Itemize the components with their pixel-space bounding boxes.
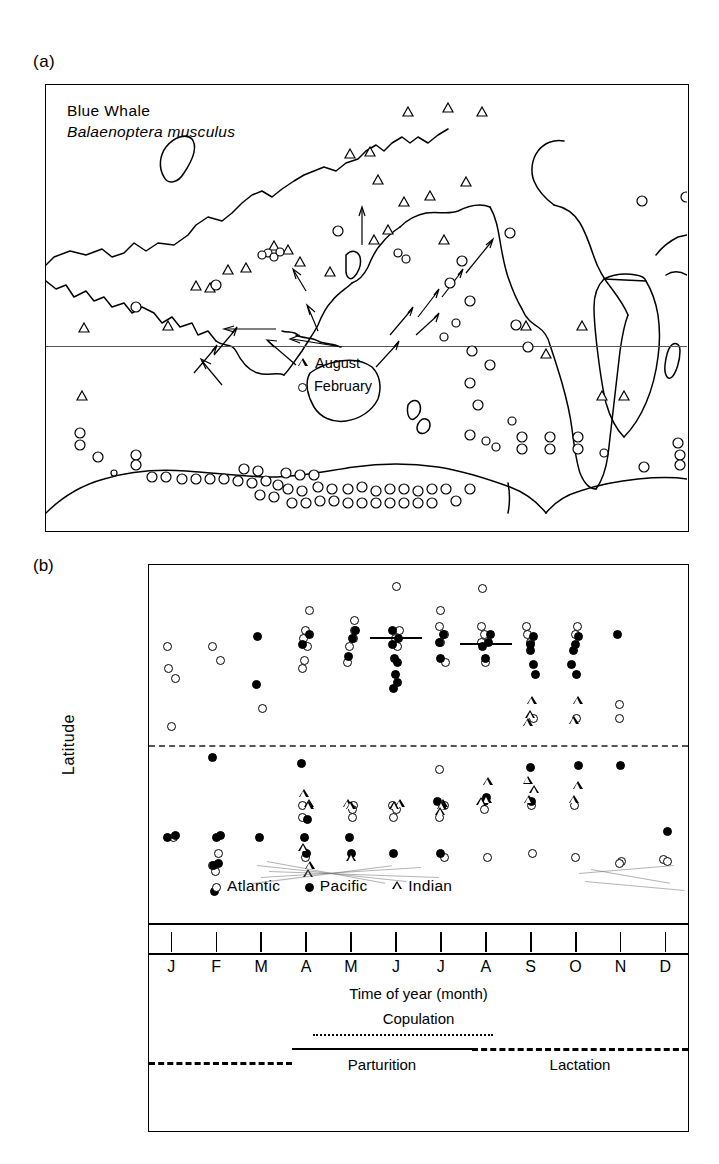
data-point-atlantic (392, 582, 401, 591)
data-point-atlantic (350, 616, 359, 625)
month-tick-a-3 (305, 932, 307, 952)
panel-a-label: (a) (33, 52, 55, 72)
data-point-pacific (297, 759, 306, 768)
data-point-pacific (253, 632, 262, 641)
data-point-atlantic (208, 642, 217, 651)
data-point-atlantic (483, 853, 492, 862)
month-label-11: D (654, 958, 678, 976)
data-point-pacific (388, 640, 397, 649)
panel-b-seasonal-latitude-chart: (b) Latitude N 90° 70° 50° 30° 10° 10° 3… (0, 540, 719, 1164)
median-bar (370, 637, 422, 639)
data-point-pacific (663, 827, 672, 836)
data-point-atlantic (298, 664, 307, 673)
figure-root: (a) (0, 0, 719, 1164)
data-point-pacific (572, 670, 581, 679)
scatter-plot-area (149, 565, 688, 923)
data-point-atlantic (436, 606, 445, 615)
data-point-atlantic (345, 642, 354, 651)
data-point-pacific (216, 831, 225, 840)
y-axis-tick-labels: N 90° 70° 50° 30° 10° 10° 30° 50° 70° S … (0, 540, 144, 940)
data-point-pacific (526, 763, 535, 772)
data-point-indian (527, 696, 537, 704)
month-tick-j-6 (440, 932, 442, 952)
map-sighting-symbols (46, 85, 687, 530)
circle-filled-icon (305, 883, 314, 892)
lactation-wrap-line (149, 1062, 292, 1065)
data-point-indian (299, 789, 309, 797)
month-label-4: M (339, 958, 363, 976)
month-tick-n-10 (620, 932, 622, 952)
data-point-pacific (255, 833, 264, 842)
month-label-3: A (294, 958, 318, 976)
data-point-pacific (298, 640, 307, 649)
month-tick-d-11 (665, 932, 667, 952)
month-tick-f-1 (216, 932, 218, 952)
data-point-indian (523, 718, 533, 726)
data-point-indian (529, 785, 539, 793)
data-point-indian (523, 776, 533, 784)
data-point-indian (573, 696, 583, 704)
data-point-indian (476, 797, 486, 805)
data-point-pacific (529, 660, 538, 669)
parturition-period-line (292, 1048, 472, 1050)
data-point-atlantic (171, 674, 180, 683)
month-tick-s-8 (530, 932, 532, 952)
month-axis-line (149, 953, 688, 955)
data-point-atlantic (214, 849, 223, 858)
month-tick-o-9 (575, 932, 577, 952)
copulation-period-line (313, 1034, 493, 1036)
data-point-atlantic (348, 813, 357, 822)
data-point-atlantic (389, 813, 398, 822)
data-point-pacific (305, 630, 314, 639)
data-point-pacific (569, 646, 578, 655)
month-tick-a-7 (485, 932, 487, 952)
legend-item-pacific: Pacific (305, 877, 372, 894)
month-label-10: N (609, 958, 633, 976)
month-label-0: J (159, 958, 183, 976)
data-point-pacific (300, 833, 309, 842)
data-point-pacific (436, 849, 445, 858)
month-label-5: J (384, 958, 408, 976)
month-label-2: M (249, 958, 273, 976)
triangle-open-icon (392, 881, 402, 889)
annotation-scratch-line (591, 869, 670, 884)
data-point-indian (569, 795, 579, 803)
month-label-9: O (564, 958, 588, 976)
data-point-pacific (344, 652, 353, 661)
data-point-pacific (389, 849, 398, 858)
data-point-pacific (171, 831, 180, 840)
data-point-pacific (574, 761, 583, 770)
data-point-atlantic (167, 722, 176, 731)
month-tick-m-2 (260, 932, 262, 952)
data-point-atlantic (478, 584, 487, 593)
data-point-pacific (303, 815, 312, 824)
data-point-indian (304, 801, 314, 809)
data-point-pacific (345, 833, 354, 842)
month-label-6: J (429, 958, 453, 976)
lactation-period-line (472, 1048, 688, 1051)
data-point-atlantic (435, 765, 444, 774)
data-point-pacific (393, 658, 402, 667)
data-point-indian (569, 716, 579, 724)
data-point-indian (525, 710, 535, 718)
data-point-pacific (567, 660, 576, 669)
data-point-pacific (616, 761, 625, 770)
data-point-indian (483, 777, 493, 785)
data-point-pacific (252, 680, 261, 689)
month-tick-j-5 (395, 932, 397, 952)
data-point-atlantic (480, 805, 489, 814)
data-point-pacific (613, 630, 622, 639)
data-point-indian (435, 807, 445, 815)
month-tick-m-4 (350, 932, 352, 952)
data-point-indian (298, 843, 308, 851)
data-point-indian (524, 795, 534, 803)
data-point-pacific (208, 753, 217, 762)
parturition-label: Parturition (292, 1056, 472, 1073)
data-point-indian (573, 781, 583, 789)
data-point-atlantic (164, 664, 173, 673)
month-label-7: A (474, 958, 498, 976)
data-point-atlantic (305, 606, 314, 615)
data-point-atlantic (615, 714, 624, 723)
data-point-indian (346, 853, 356, 861)
data-point-indian (389, 801, 399, 809)
